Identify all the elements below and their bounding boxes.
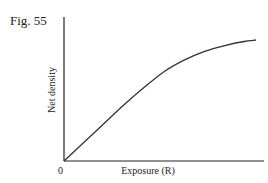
x-axis-label: Exposure (R) bbox=[121, 165, 175, 176]
origin-label: 0 bbox=[58, 165, 63, 176]
y-axis-label: Net density bbox=[46, 67, 57, 113]
chart-plot-area bbox=[0, 0, 268, 183]
density-curve bbox=[64, 40, 256, 161]
